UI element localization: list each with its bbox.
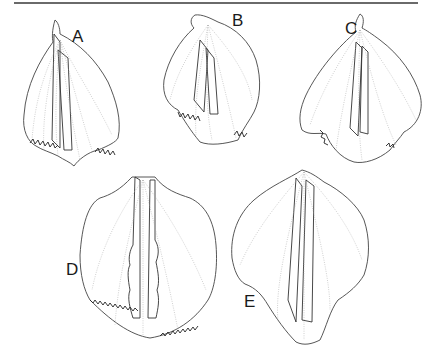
botanical-plate [0, 0, 436, 358]
panel-d-drawing [80, 177, 217, 338]
panel-label-d: D [66, 261, 78, 278]
panel-label-a: A [72, 28, 83, 45]
panel-label-c: C [345, 20, 357, 37]
panel-label-b: B [232, 12, 243, 29]
panel-label-e: E [244, 293, 255, 310]
panel-c-drawing [300, 14, 421, 163]
panel-e-drawing [232, 170, 369, 344]
panel-b-drawing [164, 15, 260, 144]
